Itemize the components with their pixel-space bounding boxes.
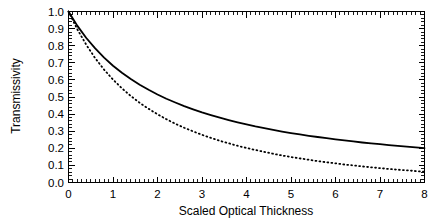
y-tick-label: 0.5 bbox=[48, 91, 64, 103]
x-axis-title: Scaled Optical Thickness bbox=[179, 204, 314, 218]
y-tick-label: 0.9 bbox=[48, 23, 64, 35]
x-tick-label: 2 bbox=[154, 188, 160, 200]
series-solid-curve bbox=[69, 12, 425, 149]
x-tick-label: 4 bbox=[243, 188, 250, 200]
y-tick-label: 0.0 bbox=[48, 177, 64, 189]
y-tick-label: 0.1 bbox=[48, 159, 64, 171]
x-tick-label: 1 bbox=[110, 188, 116, 200]
x-tick-label: 0 bbox=[65, 188, 71, 200]
y-tick-label: 0.2 bbox=[48, 142, 64, 154]
y-tick-label: 0.4 bbox=[48, 108, 65, 120]
data-series-group bbox=[69, 12, 425, 172]
plot-frame bbox=[69, 12, 425, 183]
plot-canvas: 012345678 0.00.10.20.30.40.50.60.70.80.9… bbox=[0, 0, 446, 221]
y-tick-label: 0.3 bbox=[48, 125, 64, 137]
x-tick-label: 5 bbox=[288, 188, 294, 200]
y-tick-label: 1.0 bbox=[48, 6, 64, 18]
series-dotted-curve bbox=[69, 12, 425, 172]
chart-figure: 012345678 0.00.10.20.30.40.50.60.70.80.9… bbox=[0, 0, 446, 221]
x-tick-label: 8 bbox=[421, 188, 427, 200]
y-tick-label: 0.8 bbox=[48, 40, 64, 52]
x-axis-tick-labels: 012345678 bbox=[65, 188, 427, 200]
x-tick-label: 7 bbox=[377, 188, 383, 200]
y-tick-label: 0.7 bbox=[48, 57, 64, 69]
y-axis-title: Transmissivity bbox=[9, 58, 23, 134]
x-tick-label: 6 bbox=[332, 188, 338, 200]
y-axis-ticks bbox=[69, 12, 425, 183]
x-tick-label: 3 bbox=[199, 188, 205, 200]
plot-border bbox=[69, 12, 425, 183]
y-axis-tick-labels: 0.00.10.20.30.40.50.60.70.80.91.0 bbox=[48, 6, 65, 189]
x-axis-ticks bbox=[69, 12, 425, 183]
y-tick-label: 0.6 bbox=[48, 74, 64, 86]
